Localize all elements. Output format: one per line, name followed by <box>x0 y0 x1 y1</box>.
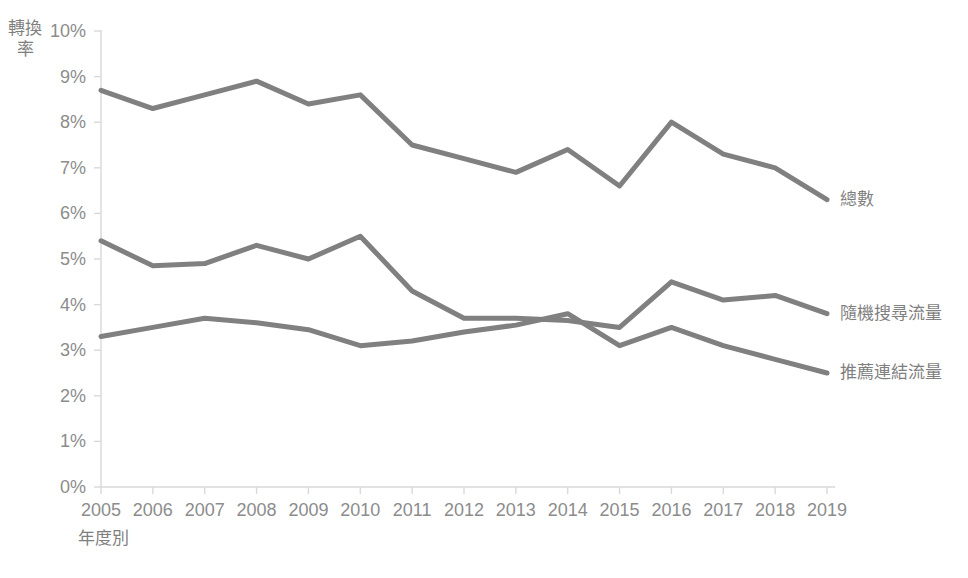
series-line-2 <box>101 236 827 327</box>
plot-area <box>0 0 968 578</box>
conversion-rate-line-chart: 轉換率 年度別 0%1%2%3%4%5%6%7%8%9%10% 20052006… <box>0 0 968 578</box>
series-lines-group <box>101 81 827 373</box>
series-line-3 <box>101 314 827 373</box>
series-line-1 <box>101 81 827 200</box>
